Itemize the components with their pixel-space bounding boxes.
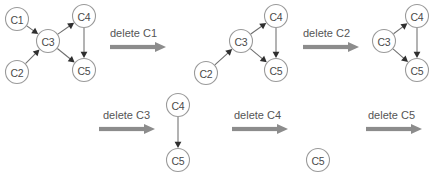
op-delete-c5-arrow-shaft: [366, 127, 411, 131]
op-delete-c1-label: delete C1: [110, 27, 157, 39]
op-delete-c1: delete C1: [110, 27, 166, 52]
op-delete-c5-label: delete C5: [368, 109, 415, 121]
op-delete-c2: delete C2: [303, 27, 359, 52]
op-delete-c3: delete C3: [99, 109, 155, 134]
node-label-graph-1-C2: C2: [10, 67, 23, 79]
node-label-graph-1-C3: C3: [41, 36, 54, 48]
node-label-graph-3-C5: C5: [410, 65, 423, 77]
diagram-canvas: C1C2C3C4C5C2C3C4C5C3C4C5C4C5C5 delete C1…: [0, 0, 434, 180]
op-delete-c4-arrow-shaft: [232, 127, 277, 131]
op-delete-c3-arrow-shaft: [99, 127, 144, 131]
node-label-graph-2-C5: C5: [269, 65, 282, 77]
op-delete-c5: delete C5: [366, 109, 422, 134]
node-graph-5-C5[interactable]: C5: [307, 149, 330, 172]
edge-graph-3-C3-to-C5: [393, 49, 408, 62]
node-label-graph-2-C2: C2: [199, 68, 212, 80]
edge-graph-1-C3-to-C5: [57, 49, 74, 63]
op-delete-c5-arrow-head: [411, 124, 422, 134]
edges-layer: [25, 23, 420, 148]
node-graph-3-C3[interactable]: C3: [373, 30, 396, 53]
edge-graph-1-C4-to-C5: [81, 28, 88, 58]
node-graph-1-C3[interactable]: C3: [37, 30, 60, 53]
op-delete-c1-arrow-head: [155, 42, 166, 52]
node-label-graph-4-C4: C4: [171, 100, 184, 112]
node-graph-1-C5[interactable]: C5: [73, 59, 96, 82]
node-graph-2-C3[interactable]: C3: [230, 30, 253, 53]
edge-graph-1-C2-to-C3: [25, 49, 39, 63]
op-delete-c2-arrow-shaft: [303, 45, 348, 49]
edge-graph-4-C4-to-C5: [175, 117, 182, 148]
node-label-graph-1-C1: C1: [10, 14, 23, 26]
node-graph-1-C1[interactable]: C1: [6, 8, 29, 31]
edge-graph-2-C3-to-C4: [251, 23, 266, 34]
op-delete-c1-arrow-shaft: [110, 45, 155, 49]
edge-graph-1-C3-to-C4: [58, 23, 74, 34]
deletion-sequence-diagram: C1C2C3C4C5C2C3C4C5C3C4C5C4C5C5 delete C1…: [0, 0, 434, 180]
edge-graph-1-C1-to-C3: [27, 26, 38, 34]
edge-graph-2-C4-to-C5: [273, 28, 280, 58]
op-delete-c2-arrow-head: [348, 42, 359, 52]
edge-graph-3-C3-to-C4: [394, 23, 408, 34]
node-label-graph-5-C5: C5: [311, 155, 324, 167]
node-label-graph-4-C5: C5: [171, 155, 184, 167]
node-graph-1-C4[interactable]: C4: [73, 5, 96, 28]
edge-graph-3-C4-to-C5: [414, 28, 421, 58]
node-graph-1-C2[interactable]: C2: [6, 61, 29, 84]
nodes-layer: C1C2C3C4C5C2C3C4C5C3C4C5C4C5C5: [6, 5, 429, 172]
edge-graph-2-C2-to-C3: [215, 49, 232, 65]
op-delete-c3-label: delete C3: [103, 109, 150, 121]
node-label-graph-3-C4: C4: [410, 11, 423, 23]
node-label-graph-2-C3: C3: [234, 36, 247, 48]
edge-graph-2-C3-to-C5: [250, 49, 267, 63]
op-delete-c2-label: delete C2: [303, 27, 350, 39]
node-graph-4-C4[interactable]: C4: [167, 94, 190, 117]
op-delete-c3-arrow-head: [144, 124, 155, 134]
op-delete-c4-label: delete C4: [234, 109, 281, 121]
node-label-graph-1-C5: C5: [77, 65, 90, 77]
node-label-graph-2-C4: C4: [269, 11, 282, 23]
op-delete-c4: delete C4: [232, 109, 288, 134]
node-graph-3-C5[interactable]: C5: [406, 59, 429, 82]
node-graph-2-C4[interactable]: C4: [265, 5, 288, 28]
node-graph-2-C2[interactable]: C2: [195, 62, 218, 85]
node-graph-3-C4[interactable]: C4: [406, 5, 429, 28]
node-label-graph-1-C4: C4: [77, 11, 90, 23]
node-graph-2-C5[interactable]: C5: [265, 59, 288, 82]
node-label-graph-3-C3: C3: [377, 36, 390, 48]
op-delete-c4-arrow-head: [277, 124, 288, 134]
node-graph-4-C5[interactable]: C5: [167, 149, 190, 172]
